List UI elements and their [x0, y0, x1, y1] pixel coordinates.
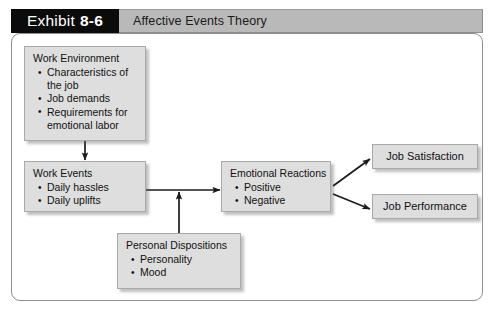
node-bullet-list: Characteristics of the job Job demands R… [33, 66, 138, 132]
node-work-environment: Work Environment Characteristics of the … [24, 46, 146, 141]
list-item: Mood [140, 266, 233, 279]
node-title: Work Events [33, 167, 138, 180]
node-title: Job Satisfaction [386, 150, 464, 163]
list-item: Personality [140, 253, 233, 266]
node-bullet-list: Daily hassles Daily uplifts [33, 181, 138, 207]
node-bullet-list: Personality Mood [126, 253, 233, 279]
node-title: Personal Dispositions [126, 239, 233, 252]
list-item: Requirements for emotional labor [47, 106, 138, 132]
exhibit-figure: Exhibit 8-6 Affective Events Theory [0, 0, 496, 314]
diagram-canvas: Work Environment Characteristics of the … [0, 0, 496, 314]
list-item: Job demands [47, 92, 138, 105]
node-title: Job Performance [383, 200, 467, 213]
node-job-satisfaction: Job Satisfaction [372, 144, 478, 169]
node-personal-dispositions: Personal Dispositions Personality Mood [117, 233, 241, 289]
connector-reactions-to-satisfaction [333, 159, 370, 186]
node-work-events: Work Events Daily hassles Daily uplifts [24, 161, 146, 212]
node-job-performance: Job Performance [372, 194, 478, 219]
node-emotional-reactions: Emotional Reactions Positive Negative [221, 161, 331, 212]
list-item: Characteristics of the job [47, 66, 138, 92]
list-item: Daily uplifts [47, 194, 138, 207]
list-item: Daily hassles [47, 181, 138, 194]
connector-reactions-to-performance [333, 194, 370, 209]
list-item: Positive [244, 181, 323, 194]
node-title: Work Environment [33, 52, 138, 65]
node-bullet-list: Positive Negative [230, 181, 323, 207]
list-item: Negative [244, 194, 323, 207]
node-title: Emotional Reactions [230, 167, 323, 180]
